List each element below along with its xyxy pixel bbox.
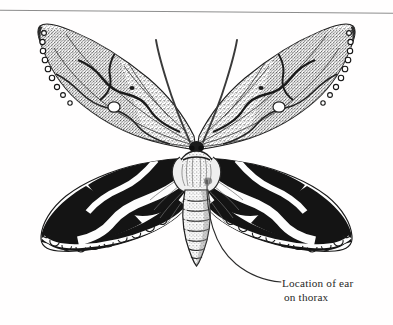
annotation-label: Location of ear on thorax [282, 276, 353, 304]
tympanal-organ-location [204, 178, 212, 185]
thorax [172, 151, 220, 193]
forewing-left [36, 24, 196, 150]
eyespot-left [108, 102, 120, 112]
annotation-label-line-2: on thorax [282, 290, 353, 304]
forewing-right [197, 24, 357, 150]
orbicular-spot-right [258, 86, 263, 90]
hindwing-left [41, 158, 194, 252]
abdomen [183, 190, 210, 266]
eyespot-right [273, 102, 285, 112]
hindwing-right [199, 158, 352, 252]
eye-right [198, 145, 203, 150]
orbicular-spot-left [129, 86, 134, 90]
figure-container: Location of ear on thorax [0, 0, 393, 325]
eye-left [189, 145, 194, 150]
annotation-label-line-1: Location of ear [282, 276, 353, 290]
